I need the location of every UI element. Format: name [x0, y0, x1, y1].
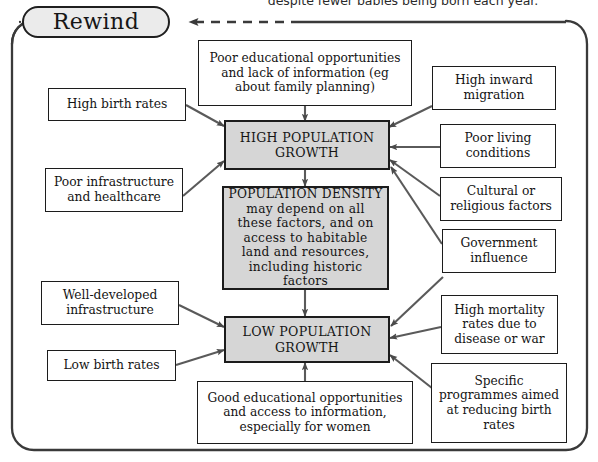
node-high-population-growth: HIGH POPULATION GROWTH [224, 120, 390, 170]
node-high-mortality: High mortality rates due to disease or w… [441, 295, 558, 354]
node-government-influence: Government influence [442, 229, 556, 273]
diagram-stage: despite fewer babies being born each yea… [0, 0, 598, 462]
rewind-label: Rewind [53, 11, 140, 33]
edge-lowbirth-to-low [176, 350, 224, 365]
edge-mortality-to-low [390, 327, 441, 338]
node-low-population-growth: LOW POPULATION GROWTH [224, 316, 390, 363]
edge-high-birth-to-high [186, 105, 224, 126]
node-poor-infrastructure: Poor infrastructure and healthcare [45, 168, 183, 212]
edge-migration-to-high [389, 106, 432, 127]
rewind-pill[interactable]: Rewind [22, 6, 170, 38]
node-population-density: POPULATION DENSITY may depend on all the… [222, 186, 389, 290]
edge-government-to-low [391, 277, 443, 326]
edge-poor-infra-to-high [183, 161, 224, 196]
node-high-birth-rates: High birth rates [48, 88, 186, 121]
node-high-inward-migration: High inward migration [432, 66, 556, 110]
node-cultural-religious-factors: Cultural or religious factors [440, 177, 562, 221]
node-low-birth-rates: Low birth rates [47, 350, 176, 381]
node-poor-living-conditions: Poor living conditions [440, 124, 556, 168]
node-specific-programmes: Specific programmes aimed at reducing bi… [431, 363, 567, 443]
node-good-education: Good educational opportunities and acces… [197, 381, 413, 444]
node-well-developed-infrastructure: Well-developed infrastructure [41, 281, 179, 325]
edge-welldev-to-low [179, 305, 224, 327]
node-poor-education: Poor educational opportunities and lack … [198, 40, 412, 106]
